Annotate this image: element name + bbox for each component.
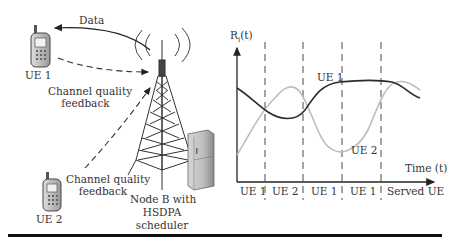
ue1-curve-label: UE 1 bbox=[317, 71, 344, 83]
server-cabinet-icon bbox=[188, 130, 214, 190]
served-ue-label: Served UE bbox=[387, 185, 444, 197]
mobile-phone-icon bbox=[43, 172, 61, 211]
ue1-curve bbox=[237, 81, 420, 119]
y-axis-label: Ri(t) bbox=[230, 29, 253, 46]
ue2-curve bbox=[237, 82, 420, 155]
slot-label-4: UE 1 bbox=[350, 185, 377, 197]
slot-dividers bbox=[265, 42, 381, 200]
ue2-label: UE 2 bbox=[36, 213, 63, 225]
feedback1-label-line2: feedback bbox=[48, 97, 123, 109]
mobile-phone-icon bbox=[31, 25, 50, 67]
slot-label-3: UE 1 bbox=[311, 185, 338, 197]
feedback-arrow-ue1 bbox=[58, 58, 148, 72]
feedback2-label-line2: feedback bbox=[66, 185, 140, 197]
slot-label-2: UE 2 bbox=[272, 185, 299, 197]
bottom-rule bbox=[8, 234, 442, 237]
x-axis-label: Time (t) bbox=[405, 162, 447, 174]
nodeb-label-line3: scheduler bbox=[130, 219, 194, 231]
nodeb-label-line1: Node B with bbox=[130, 193, 194, 205]
data-label: Data bbox=[79, 14, 104, 26]
slot-label-1: UE 1 bbox=[240, 185, 267, 197]
nodeb-label-line2: HSDPA bbox=[130, 206, 194, 218]
feedback2-label-line1: Channel quality bbox=[66, 173, 140, 185]
ue2-curve-label: UE 2 bbox=[351, 144, 378, 156]
ue1-label: UE 1 bbox=[25, 69, 52, 81]
feedback1-label-line1: Channel quality bbox=[48, 85, 123, 97]
cell-tower-icon bbox=[128, 40, 198, 190]
